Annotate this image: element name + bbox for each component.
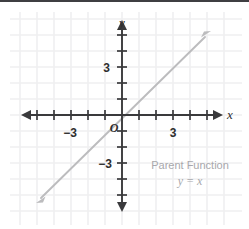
x-axis-label: x	[226, 107, 233, 122]
x-tick-label-neg-three: −3	[63, 126, 77, 140]
x-axis-arrow-left	[21, 110, 31, 120]
y-axis-label: y	[117, 15, 125, 30]
x-tick-label-pos-three: 3	[170, 126, 177, 140]
y-tick-label-pos-three: 3	[103, 61, 110, 75]
x-axis-arrow-right	[213, 110, 223, 120]
y-tick-label-neg-three: −3	[98, 157, 112, 171]
parent-function-annotation-title: Parent Function	[151, 159, 229, 171]
coordinate-plane-figure: y x O −3 3 3 −3 Parent Function y = x	[0, 0, 249, 229]
graph-canvas: y x O −3 3 3 −3 Parent Function y = x	[0, 0, 249, 229]
origin-label: O	[110, 121, 119, 135]
parent-function-annotation-equation: y = x	[177, 174, 203, 188]
